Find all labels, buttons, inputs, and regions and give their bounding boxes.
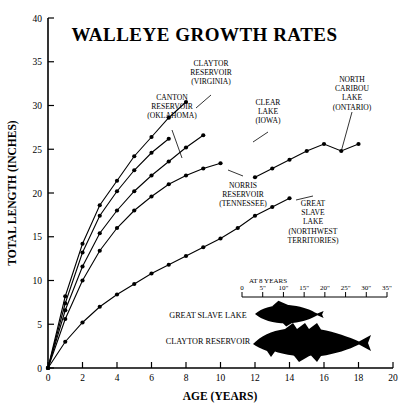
data-point <box>80 278 84 282</box>
leader-line <box>172 130 182 158</box>
inset-tick-label: 5" <box>260 284 267 292</box>
x-tick-label: 0 <box>46 373 51 383</box>
inset-tick-label: 10" <box>278 284 288 292</box>
data-point <box>149 194 153 198</box>
annotation-line: CLEAR <box>256 98 282 107</box>
data-point <box>184 145 188 149</box>
data-point <box>98 231 102 235</box>
data-point <box>201 245 205 249</box>
data-point <box>305 149 309 153</box>
annotation-line: GREAT <box>301 199 326 208</box>
series-line <box>48 135 203 368</box>
annotation-line: (NORTHWEST <box>289 227 338 236</box>
annotation-line: (VIRGINIA) <box>191 77 231 86</box>
data-point <box>253 175 257 179</box>
y-tick-label: 35 <box>33 57 43 67</box>
data-point <box>167 263 171 267</box>
data-point <box>218 236 222 240</box>
data-point <box>287 196 291 200</box>
annotation-line: RESERVOIR <box>190 68 233 77</box>
data-point <box>115 226 119 230</box>
leader-line <box>228 170 243 176</box>
y-tick-label: 20 <box>33 189 43 199</box>
data-point <box>132 208 136 212</box>
leader-line <box>341 112 352 152</box>
data-point <box>149 173 153 177</box>
x-tick-label: 10 <box>216 373 226 383</box>
leader-line <box>196 95 211 108</box>
annotation-line: SLAVE <box>301 208 325 217</box>
inset-tick-label: 20" <box>320 284 330 292</box>
series-line <box>48 139 169 368</box>
data-point <box>132 282 136 286</box>
data-point <box>80 264 84 268</box>
x-tick-label: 18 <box>354 373 364 383</box>
data-point <box>149 271 153 275</box>
data-point <box>115 208 119 212</box>
leader-line <box>253 132 268 142</box>
x-tick-label: 12 <box>250 373 260 383</box>
chart-figure: WALLEYE GROWTH RATES 0510152025303540 02… <box>0 0 409 416</box>
x-tick-label: 8 <box>184 373 189 383</box>
annotation-line: RESERVOIR <box>151 102 194 111</box>
y-tick-label: 0 <box>37 364 42 374</box>
data-point <box>132 154 136 158</box>
inset-fish-label-great-slave-lake: GREAT SLAVE LAKE <box>169 311 246 320</box>
data-point <box>80 242 84 246</box>
annotation-line: NORTH <box>339 75 365 84</box>
annotation-line: (ONTARIO) <box>333 103 372 112</box>
data-point <box>287 158 291 162</box>
x-tick-label: 6 <box>149 373 154 383</box>
inset-scale-ticks: 05"10"15"20"25"30"35" <box>240 284 392 297</box>
data-point <box>115 292 119 296</box>
x-tick-label: 2 <box>80 373 85 383</box>
data-point <box>63 301 67 305</box>
annotation-line: (OKLAHOMA) <box>147 111 197 120</box>
data-point <box>253 214 257 218</box>
data-point <box>167 159 171 163</box>
y-tick-label: 5 <box>37 320 42 330</box>
annotation-line: (IOWA) <box>256 116 281 125</box>
data-point <box>132 189 136 193</box>
annotation-line: LAKE <box>342 93 363 102</box>
annotation-line: RESERVOIR <box>222 190 265 199</box>
x-tick-label: 14 <box>285 373 295 383</box>
annotation-line: LAKE <box>258 107 279 116</box>
x-tick-label: 20 <box>388 373 398 383</box>
inset-tick-label: 30" <box>361 284 371 292</box>
data-point <box>322 142 326 146</box>
annotation-1: CANTONRESERVOIR(OKLAHOMA) <box>147 93 197 120</box>
data-point <box>184 173 188 177</box>
data-point <box>201 133 205 137</box>
y-axis-label: TOTAL LENGTH (INCHES) <box>6 120 19 265</box>
data-point <box>270 205 274 209</box>
inset-tick-label: 25" <box>341 284 351 292</box>
annotation-0: CLAYTORRESERVOIR(VIRGINIA) <box>190 59 233 86</box>
fish-silhouette-large <box>253 323 371 362</box>
annotation-line: TERRITORIES) <box>288 236 339 245</box>
data-point <box>98 214 102 218</box>
annotation-5: NORTHCARIBOULAKE(ONTARIO) <box>333 75 372 112</box>
annotation-line: NORRIS <box>229 181 257 190</box>
data-point <box>98 203 102 207</box>
chart-canvas: 0510152025303540 02468101214161820 AGE (… <box>0 0 409 416</box>
data-point <box>149 135 153 139</box>
inset-tick-label: 15" <box>299 284 309 292</box>
data-point <box>115 179 119 183</box>
data-point <box>167 182 171 186</box>
data-point <box>218 161 222 165</box>
data-point <box>98 305 102 309</box>
annotation-line: CLAYTOR <box>193 59 229 68</box>
data-point <box>80 320 84 324</box>
data-point <box>236 226 240 230</box>
data-point <box>80 250 84 254</box>
annotation-line: LAKE <box>303 217 324 226</box>
data-point <box>201 166 205 170</box>
x-axis-ticks: 02468101214161820 <box>46 362 398 383</box>
x-tick-label: 4 <box>115 373 120 383</box>
data-point <box>167 137 171 141</box>
annotation-line: CARIBOU <box>335 84 370 93</box>
data-point <box>184 254 188 258</box>
inset-tick-label: 0 <box>240 284 244 292</box>
data-point <box>356 142 360 146</box>
